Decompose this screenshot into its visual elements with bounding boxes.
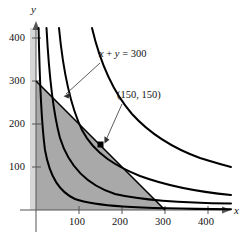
equation-annotation: x + y = 300 [99,48,146,59]
equation-plus-symbol: + [104,48,115,59]
graph-figure: y x 400 300 200 100 100 200 300 400 x + … [0,0,247,241]
y-tick-label-200: 200 [9,118,25,129]
equation-value: = 300 [120,48,147,59]
x-axis-label: x [234,204,239,216]
leader-line-equation [66,63,100,94]
point-coordinate-annotation: (150, 150) [117,89,161,100]
x-tick-label-100: 100 [69,216,85,227]
leader-line-point [106,104,122,140]
x-tick-label-400: 400 [198,216,214,227]
x-tick-label-300: 300 [155,216,171,227]
x-tick-label-200: 200 [112,216,128,227]
y-tick-label-100: 100 [9,161,25,172]
plot-canvas [0,0,247,241]
optimum-point-marker [98,142,104,148]
y-tick-label-300: 300 [9,75,25,86]
y-axis-label: y [31,3,36,15]
y-tick-label-400: 400 [9,32,25,43]
y-axis-shade-band [30,28,36,210]
